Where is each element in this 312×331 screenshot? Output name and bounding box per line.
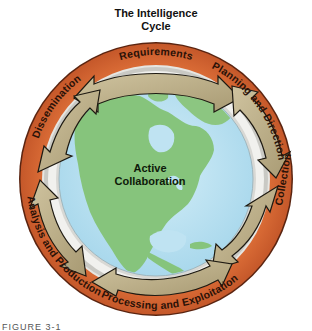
figure-caption: FIGURE 3-1 [2, 322, 62, 331]
center-label-line-1: Active [133, 162, 166, 174]
intelligence-cycle-diagram: Requirements Planning and Direction Diss… [0, 0, 312, 331]
center-label-line-2: Collaboration [115, 175, 186, 187]
